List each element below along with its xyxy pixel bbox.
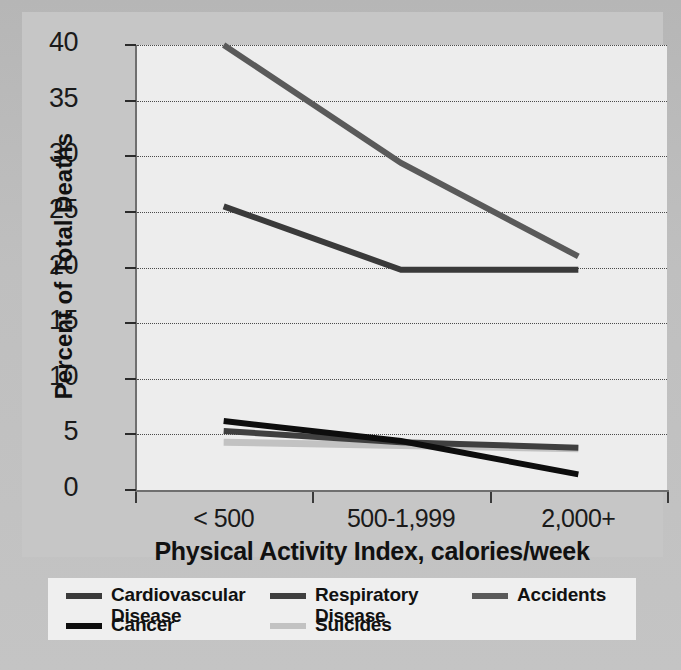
y-tick-mark xyxy=(125,267,136,269)
y-tick-mark xyxy=(125,378,136,380)
gridline xyxy=(137,434,667,435)
y-tick-mark xyxy=(125,322,136,324)
y-tick-mark xyxy=(125,44,136,46)
y-tick-label: 0 xyxy=(63,472,78,503)
gridline xyxy=(137,268,667,269)
legend-swatch-icon xyxy=(66,593,102,599)
y-tick-mark xyxy=(125,100,136,102)
y-axis-line xyxy=(135,45,137,492)
chart-legend: Cardiovascular DiseaseRespiratory Diseas… xyxy=(48,578,636,640)
x-tick-mark xyxy=(667,492,669,503)
chart-figure: 0510152025303540 < 500500-1,9992,000+ Pe… xyxy=(22,12,663,557)
gridline xyxy=(137,212,667,213)
y-tick-mark xyxy=(125,211,136,213)
x-tick-mark xyxy=(312,492,314,503)
x-tick-mark xyxy=(490,492,492,503)
x-tick-label: 2,000+ xyxy=(490,504,667,533)
gridline xyxy=(137,101,667,102)
y-tick-mark xyxy=(125,489,136,491)
gridline xyxy=(137,156,667,157)
legend-swatch-icon xyxy=(66,623,102,629)
y-tick-label: 40 xyxy=(49,27,78,58)
legend-swatch-icon xyxy=(472,593,508,599)
legend-label: Cancer xyxy=(111,614,174,635)
gridline xyxy=(137,323,667,324)
gridline xyxy=(137,45,667,46)
legend-label: Suicides xyxy=(315,614,392,635)
y-tick-mark xyxy=(125,433,136,435)
gridline xyxy=(137,379,667,380)
legend-item[interactable]: Cancer xyxy=(66,614,174,635)
y-tick-mark xyxy=(125,155,136,157)
legend-swatch-icon xyxy=(270,623,306,629)
x-tick-label: 500-1,999 xyxy=(312,504,489,533)
legend-label: Accidents xyxy=(517,584,606,605)
legend-swatch-icon xyxy=(270,593,306,599)
x-tick-mark xyxy=(135,492,137,503)
legend-item[interactable]: Suicides xyxy=(270,614,392,635)
x-tick-label: < 500 xyxy=(135,504,312,533)
x-axis-title: Physical Activity Index, calories/week xyxy=(92,537,652,566)
y-axis-title: Percent of Total Deaths xyxy=(50,76,78,456)
scanned-page: 0510152025303540 < 500500-1,9992,000+ Pe… xyxy=(0,0,681,670)
x-axis-line xyxy=(135,490,669,492)
legend-item[interactable]: Accidents xyxy=(472,584,606,605)
